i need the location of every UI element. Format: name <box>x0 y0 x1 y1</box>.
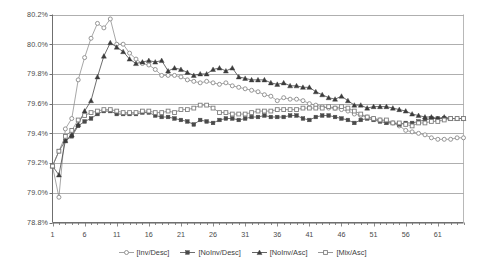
data-point-open-square <box>115 109 119 113</box>
legend-marker-open-square-icon <box>318 248 333 257</box>
data-point-open-square <box>224 111 228 115</box>
data-point-filled-triangle <box>101 54 106 59</box>
data-point-filled-square <box>263 114 267 118</box>
data-point-open-square <box>134 111 138 115</box>
data-point-open-square <box>295 108 299 112</box>
legend-entry-3[interactable]: [Mix/Asc] <box>318 248 366 257</box>
y-tick-label: 79.4% <box>4 129 48 138</box>
series-line <box>53 111 464 166</box>
data-point-filled-square <box>179 118 183 122</box>
data-point-open-circle <box>230 84 234 88</box>
legend-label: [Mix/Asc] <box>336 248 366 257</box>
data-point-open-square <box>352 109 356 113</box>
data-point-open-circle <box>205 79 209 83</box>
data-point-filled-square <box>301 117 305 121</box>
data-point-open-square <box>275 108 279 112</box>
data-point-open-square <box>301 106 305 110</box>
legend-label: [NoInv/Asc] <box>270 248 308 257</box>
legend-entry-0[interactable]: [Inv/Desc] <box>119 248 170 257</box>
data-point-open-square <box>455 117 459 121</box>
data-point-filled-triangle <box>223 68 228 73</box>
y-tick-label: 79.2% <box>4 158 48 167</box>
data-point-open-circle <box>211 81 215 85</box>
data-point-open-square <box>160 111 164 115</box>
data-point-open-circle <box>121 42 125 46</box>
legend-marker-filled-square-icon <box>180 248 195 257</box>
series-line <box>53 105 464 166</box>
data-point-open-square <box>128 111 132 115</box>
data-point-open-square <box>307 106 311 110</box>
data-point-filled-triangle <box>320 92 325 97</box>
x-tick-label: 46 <box>329 230 353 239</box>
y-tick-label: 80.0% <box>4 40 48 49</box>
data-point-open-square <box>359 112 363 116</box>
x-tick-label: 16 <box>137 230 161 239</box>
x-tick-label: 51 <box>362 230 386 239</box>
data-point-open-square <box>83 114 87 118</box>
data-point-open-circle <box>429 136 433 140</box>
data-point-open-square <box>147 109 151 113</box>
legend-marker-filled-triangle-icon <box>252 248 267 257</box>
data-point-open-circle <box>153 67 157 71</box>
data-point-open-circle <box>102 26 106 30</box>
y-tick-label: 79.6% <box>4 99 48 108</box>
data-point-open-square <box>269 109 273 113</box>
data-point-open-square <box>185 108 189 112</box>
data-point-open-circle <box>217 82 221 86</box>
data-point-open-circle <box>76 78 80 82</box>
x-tick-label: 11 <box>105 230 129 239</box>
data-point-open-circle <box>462 136 466 140</box>
data-point-open-circle <box>436 137 440 141</box>
x-tick-label: 26 <box>201 230 225 239</box>
data-point-filled-triangle <box>313 89 318 94</box>
legend-entry-2[interactable]: [NoInv/Asc] <box>252 248 308 257</box>
data-point-filled-square <box>288 114 292 118</box>
data-point-open-square <box>230 112 234 116</box>
data-point-filled-square <box>173 117 177 121</box>
data-point-open-square <box>179 108 183 112</box>
x-tick-label: 41 <box>297 230 321 239</box>
x-tick-label: 6 <box>73 230 97 239</box>
data-point-filled-triangle <box>166 68 171 73</box>
data-point-open-circle <box>410 130 414 134</box>
data-point-open-square <box>211 106 215 110</box>
data-point-open-square <box>263 109 267 113</box>
data-point-filled-triangle <box>281 80 286 85</box>
data-point-filled-square <box>192 123 196 127</box>
data-point-open-square <box>282 108 286 112</box>
data-point-filled-triangle <box>268 80 273 85</box>
data-point-open-square <box>365 115 369 119</box>
data-point-filled-triangle <box>146 58 151 63</box>
legend-marker-open-circle-icon <box>119 248 134 257</box>
x-tick-label: 1 <box>41 230 65 239</box>
data-point-open-square <box>417 121 421 125</box>
data-point-open-square <box>288 108 292 112</box>
data-point-open-circle <box>57 195 61 199</box>
gridlines <box>53 16 464 224</box>
legend-entry-1[interactable]: [NoInv/Desc] <box>180 248 240 257</box>
data-point-filled-triangle <box>217 65 222 70</box>
x-tick-label: 61 <box>426 230 450 239</box>
data-point-open-circle <box>108 17 112 21</box>
data-point-filled-triangle <box>108 40 113 45</box>
data-point-open-square <box>391 121 395 125</box>
data-point-filled-triangle <box>95 74 100 79</box>
data-point-filled-square <box>231 117 235 121</box>
data-point-open-square <box>166 109 170 113</box>
data-point-filled-square <box>308 118 312 122</box>
data-point-open-circle <box>301 99 305 103</box>
data-point-filled-triangle <box>159 58 164 63</box>
data-point-open-square <box>173 111 177 115</box>
data-point-filled-square <box>314 115 318 119</box>
data-point-filled-square <box>211 121 215 125</box>
data-point-filled-triangle <box>345 98 350 103</box>
x-tick-label: 31 <box>233 230 257 239</box>
data-point-open-square <box>378 118 382 122</box>
data-point-filled-square <box>320 114 324 118</box>
data-point-open-square <box>436 120 440 124</box>
data-point-open-square <box>320 106 324 110</box>
data-point-open-square <box>340 105 344 109</box>
data-point-open-square <box>237 112 241 116</box>
data-point-open-circle <box>243 87 247 91</box>
data-point-filled-square <box>340 117 344 121</box>
